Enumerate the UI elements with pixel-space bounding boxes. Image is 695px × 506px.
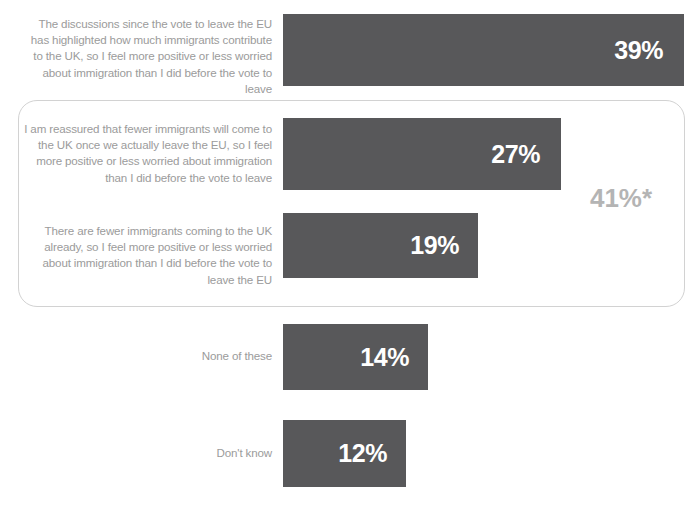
bar[interactable]: 39% <box>283 14 684 86</box>
bar-value-label: 12% <box>338 441 406 466</box>
bar-value-label: 19% <box>410 233 478 258</box>
category-label: The discussions since the vote to leave … <box>20 16 272 97</box>
bar[interactable]: 19% <box>283 213 478 278</box>
bar[interactable]: 14% <box>283 324 428 390</box>
category-label: I am reassured that fewer immigrants wil… <box>14 121 272 186</box>
group-total-label: 41%* <box>566 185 676 211</box>
bar[interactable]: 27% <box>283 118 561 190</box>
bar-value-label: 39% <box>614 38 684 63</box>
category-label: There are fewer immigrants coming to the… <box>14 223 272 288</box>
bar[interactable]: 12% <box>283 420 406 487</box>
category-label: None of these <box>110 348 272 364</box>
category-label: Don't know <box>110 445 272 461</box>
bar-value-label: 14% <box>360 345 428 370</box>
bar-value-label: 27% <box>491 142 561 167</box>
bar-chart: 41%* The discussions since the vote to l… <box>0 0 695 506</box>
